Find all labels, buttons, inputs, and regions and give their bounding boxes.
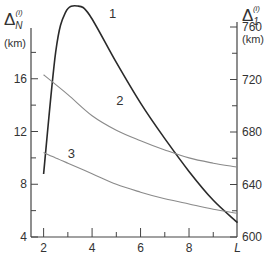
series-lines	[44, 6, 238, 223]
y-right-tick-label: 760	[242, 20, 262, 34]
chart-container: ΔN(i) (km) Δ1(i) (km) 2468L4812166006406…	[0, 0, 271, 263]
y-left-tick-label: 16	[14, 72, 28, 86]
y-left-tick-label: 4	[20, 230, 27, 244]
y-right-tick-label: 640	[242, 178, 262, 192]
y-right-tick-label: 600	[242, 230, 262, 244]
y-right-tick-label: 680	[242, 125, 262, 139]
curve-label-1: 1	[109, 6, 116, 21]
x-tick-label: 6	[137, 241, 144, 255]
y-left-axis-unit: (km)	[4, 37, 26, 49]
x-tick-label: 2	[40, 241, 47, 255]
line-chart: ΔN(i) (km) Δ1(i) (km) 2468L4812166006406…	[0, 0, 271, 263]
labels: ΔN(i) (km) Δ1(i) (km) 2468L4812166006406…	[4, 4, 264, 255]
y-right-tick-label: 720	[242, 73, 262, 87]
axes	[31, 22, 237, 237]
x-tick-label: 8	[186, 241, 193, 255]
x-tick-label: 4	[89, 241, 96, 255]
y-left-tick-label: 8	[20, 177, 27, 191]
series-line-1	[44, 6, 238, 223]
x-axis-title: L	[234, 241, 241, 255]
y-right-axis-unit: (km)	[242, 33, 264, 45]
y-left-tick-label: 12	[14, 125, 28, 139]
curve-label-2: 2	[116, 93, 123, 108]
y-left-axis-title: ΔN(i)	[4, 8, 23, 31]
ticks	[31, 27, 237, 237]
curve-label-3: 3	[68, 146, 75, 161]
